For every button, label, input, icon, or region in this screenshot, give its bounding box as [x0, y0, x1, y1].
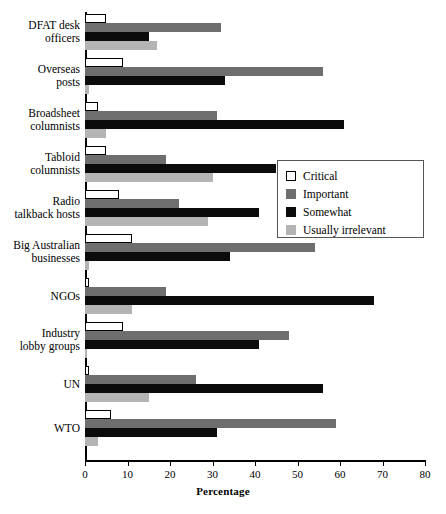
- bar-somewhat: [85, 384, 323, 393]
- legend-swatch-somewhat-icon: [286, 207, 296, 217]
- bar-somewhat: [85, 296, 374, 305]
- x-axis-tick-label: 20: [155, 468, 185, 480]
- bar-irrelevant: [85, 129, 106, 138]
- bar-irrelevant: [85, 349, 87, 358]
- bar-important: [85, 67, 323, 76]
- bar-critical: [85, 14, 106, 23]
- category-label: Overseasposts: [0, 63, 80, 89]
- bar-irrelevant: [85, 437, 98, 446]
- category-label: Radiotalkback hosts: [0, 195, 80, 221]
- bar-critical: [85, 366, 89, 375]
- bar-somewhat: [85, 76, 225, 85]
- bar-important: [85, 199, 179, 208]
- bar-important: [85, 155, 166, 164]
- bar-irrelevant: [85, 217, 208, 226]
- legend-item-critical: Critical: [286, 167, 423, 184]
- bar-somewhat: [85, 252, 230, 261]
- category-label: UN: [0, 378, 80, 391]
- bar-important: [85, 111, 217, 120]
- bar-important: [85, 243, 315, 252]
- category-label: Big Australianbusinesses: [0, 239, 80, 265]
- legend-swatch-critical-icon: [286, 171, 296, 181]
- bar-irrelevant: [85, 261, 89, 270]
- legend-item-important: Important: [286, 185, 423, 202]
- horizontal-bar-chart: 01020304050607080 DFAT deskofficersOvers…: [0, 0, 446, 514]
- x-axis-tick-label: 70: [368, 468, 398, 480]
- bar-important: [85, 331, 289, 340]
- x-axis-tick: [340, 461, 341, 466]
- category-label: Broadsheetcolumnists: [0, 107, 80, 133]
- bar-irrelevant: [85, 305, 132, 314]
- bar-important: [85, 375, 196, 384]
- bar-somewhat: [85, 164, 276, 173]
- bar-important: [85, 23, 221, 32]
- x-axis-tick: [383, 461, 384, 466]
- bar-critical: [85, 102, 98, 111]
- bar-somewhat: [85, 340, 259, 349]
- bar-important: [85, 287, 166, 296]
- x-axis-tick-label: 60: [325, 468, 355, 480]
- bar-critical: [85, 322, 123, 331]
- bar-somewhat: [85, 208, 259, 217]
- legend-label-critical: Critical: [303, 170, 338, 182]
- bar-somewhat: [85, 32, 149, 41]
- bar-irrelevant: [85, 173, 213, 182]
- bar-somewhat: [85, 428, 217, 437]
- category-label: Industrylobby groups: [0, 327, 80, 353]
- x-axis-tick: [85, 461, 86, 466]
- bar-critical: [85, 190, 119, 199]
- category-label: NGOs: [0, 290, 80, 303]
- x-axis-tick-label: 80: [410, 468, 440, 480]
- bar-irrelevant: [85, 393, 149, 402]
- x-axis-tick-label: 40: [240, 468, 270, 480]
- x-axis-tick-label: 30: [198, 468, 228, 480]
- bar-critical: [85, 234, 132, 243]
- x-axis-tick: [298, 461, 299, 466]
- legend-item-usually-irrelevant: Usually irrelevant: [286, 221, 423, 238]
- legend-item-somewhat: Somewhat: [286, 203, 423, 220]
- x-axis-tick-label: 10: [113, 468, 143, 480]
- legend-label-usually-irrelevant: Usually irrelevant: [303, 224, 386, 236]
- legend-swatch-usually-irrelevant-icon: [286, 225, 296, 235]
- bar-critical: [85, 146, 106, 155]
- chart-legend: Critical Important Somewhat Usually irre…: [277, 160, 424, 238]
- x-axis-tick: [128, 461, 129, 466]
- category-label: DFAT deskofficers: [0, 19, 80, 45]
- bar-important: [85, 419, 336, 428]
- category-label: WTO: [0, 422, 80, 435]
- legend-label-important: Important: [303, 188, 348, 200]
- category-label: Tabloidcolumnists: [0, 151, 80, 177]
- x-axis-tick: [425, 461, 426, 466]
- bar-critical: [85, 58, 123, 67]
- bar-critical: [85, 278, 89, 287]
- x-axis-tick: [255, 461, 256, 466]
- legend-swatch-important-icon: [286, 189, 296, 199]
- bar-irrelevant: [85, 41, 157, 50]
- x-axis-title: Percentage: [0, 485, 446, 497]
- bar-somewhat: [85, 120, 344, 129]
- x-axis-tick-label: 50: [283, 468, 313, 480]
- x-axis-tick: [213, 461, 214, 466]
- legend-label-somewhat: Somewhat: [303, 206, 352, 218]
- x-axis-tick: [170, 461, 171, 466]
- bar-critical: [85, 410, 111, 419]
- bar-irrelevant: [85, 85, 89, 94]
- x-axis-tick-label: 0: [70, 468, 100, 480]
